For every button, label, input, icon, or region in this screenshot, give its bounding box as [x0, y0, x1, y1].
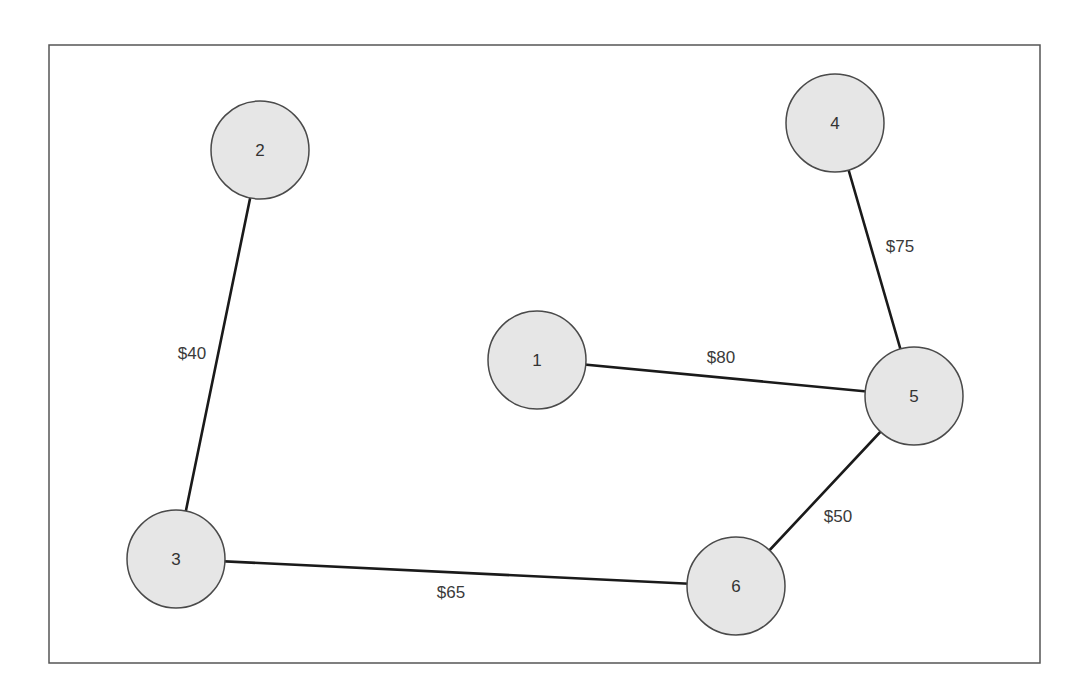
node-label: 2	[255, 141, 264, 160]
node-4: 4	[786, 74, 884, 172]
node-label: 3	[171, 550, 180, 569]
node-label: 5	[909, 387, 918, 406]
node-6: 6	[687, 537, 785, 635]
node-1: 1	[488, 311, 586, 409]
node-label: 6	[731, 577, 740, 596]
edge-cost-label: $50	[824, 507, 852, 526]
node-label: 1	[532, 351, 541, 370]
edge-cost-label: $80	[707, 348, 735, 367]
node-5: 5	[865, 347, 963, 445]
edge-cost-label: $65	[437, 583, 465, 602]
network-diagram: $40$80$75$50$65 123456	[0, 0, 1084, 695]
node-label: 4	[830, 114, 839, 133]
node-3: 3	[127, 510, 225, 608]
edge-cost-label: $75	[886, 237, 914, 256]
edge-cost-label: $40	[178, 344, 206, 363]
node-2: 2	[211, 101, 309, 199]
